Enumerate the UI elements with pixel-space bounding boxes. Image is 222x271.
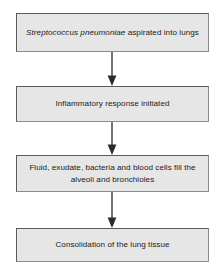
flowchart-arrow-1 — [0, 52, 222, 86]
flowchart-node-4: Consolidation of the lung tissue — [16, 228, 209, 262]
flowchart-node-2-label: Inflammatory response initiated — [23, 98, 202, 110]
flowchart-node-3: Fluid, exudate, bacteria and blood cells… — [16, 155, 209, 192]
flowchart-node-1: Streptococcus pneumoniae aspirated into … — [16, 13, 209, 52]
flowchart-diagram: Streptococcus pneumoniae aspirated into … — [0, 0, 222, 271]
organism-name-italic: Streptococcus pneumoniae — [26, 28, 125, 37]
flowchart-node-4-label: Consolidation of the lung tissue — [23, 239, 202, 251]
flowchart-arrow-3 — [0, 192, 222, 228]
flowchart-arrow-2 — [0, 122, 222, 155]
flowchart-node-2: Inflammatory response initiated — [16, 86, 209, 122]
flowchart-node-1-label: Streptococcus pneumoniae aspirated into … — [23, 27, 202, 39]
flowchart-node-1-label-rest: aspirated into lungs — [125, 28, 199, 37]
flowchart-node-3-label: Fluid, exudate, bacteria and blood cells… — [23, 162, 202, 185]
